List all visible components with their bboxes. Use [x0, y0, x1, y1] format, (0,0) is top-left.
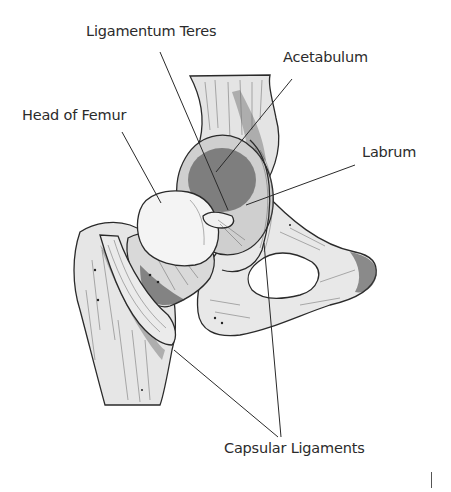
- label-head-of-femur: Head of Femur: [22, 108, 126, 123]
- corner-tick-mark: [431, 472, 432, 488]
- hip-joint-illustration: [0, 0, 451, 492]
- hip-joint-diagram: Ligamentum Teres Acetabulum Head of Femu…: [0, 0, 451, 492]
- label-labrum: Labrum: [362, 145, 416, 160]
- femoral-head: [137, 191, 218, 266]
- leader-capsular-ligaments-a: [174, 350, 278, 437]
- label-ligamentum-teres: Ligamentum Teres: [86, 24, 216, 39]
- label-capsular-ligaments: Capsular Ligaments: [224, 441, 365, 456]
- leader-head-of-femur: [122, 132, 161, 203]
- label-acetabulum: Acetabulum: [283, 50, 368, 65]
